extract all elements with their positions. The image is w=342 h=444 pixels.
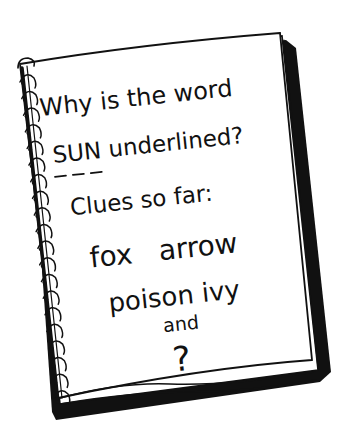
spiral-hole xyxy=(25,114,29,118)
spiral-hole xyxy=(51,364,55,368)
spiral-hole xyxy=(41,264,45,268)
spiral-hole xyxy=(28,148,32,152)
spiral-hole xyxy=(53,380,57,384)
text-line-and: and xyxy=(162,311,200,337)
spiral-hole xyxy=(48,330,52,334)
spiral-hole xyxy=(32,181,36,185)
spiral-hole xyxy=(26,131,30,135)
spiral-hole xyxy=(34,197,38,201)
spiral-hole xyxy=(42,281,46,285)
spiral-hole xyxy=(39,247,43,251)
spiral-hole xyxy=(50,347,54,351)
spiral-hole xyxy=(37,231,41,235)
spiral-hole xyxy=(44,297,48,301)
spiral-hole xyxy=(55,397,59,401)
spiral-hole xyxy=(35,214,39,218)
notebook-illustration: Why is the word SUN underlined? Clues so… xyxy=(0,0,342,444)
spiral-hole xyxy=(30,164,34,168)
spiral-hole xyxy=(46,314,50,318)
spiral-hole xyxy=(21,81,25,85)
spiral-hole xyxy=(23,98,27,102)
